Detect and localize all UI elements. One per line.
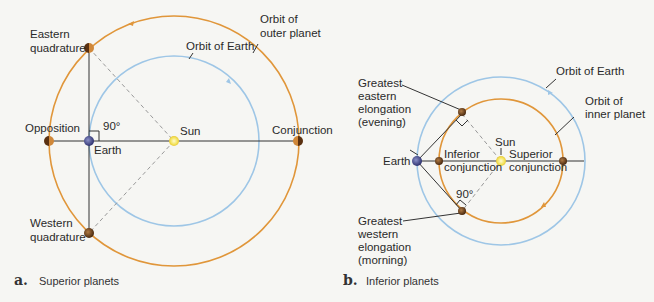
sun-icon [169,136,179,146]
label-orbit-of-earth: Orbit of Earth [556,65,624,77]
label-western-quadrature-1: Western [30,217,73,229]
label-conjunction: Conjunction [272,124,333,136]
label-orbit-outer-2: outer planet [260,27,322,39]
label-greatest-western-1: Greatest [358,215,403,227]
earth-orbit-arrow-icon [226,78,231,84]
label-orbit-outer-1: Orbit of [260,13,299,25]
label-orbit-inner-2: inner planet [585,108,646,120]
earth-icon [84,136,94,146]
caption-superior-planets: Superior planets [39,275,120,287]
right-angle-marker [456,120,468,126]
earth-icon [412,156,422,166]
label-greatest-western-2: western [357,228,398,240]
planet-opposition-icon [44,136,54,146]
label-greatest-eastern-1: Greatest [358,77,403,89]
caption-letter-a: a. [14,272,28,288]
label-orbit-of-earth: Orbit of Earth [186,40,254,52]
label-superior-conjunction-1: Superior [509,148,553,160]
label-sun: Sun [180,125,200,137]
label-opposition: Opposition [25,122,80,134]
panel-inferior-planets: Greatest eastern elongation (evening) Ea… [343,65,646,288]
planet-inferior-conjunction-icon [435,157,443,165]
label-greatest-western-3: elongation [358,241,411,253]
caption-inferior-planets: Inferior planets [366,275,439,287]
label-greatest-eastern-4: (evening) [358,116,406,128]
label-earth: Earth [383,155,411,167]
label-greatest-eastern-3: elongation [358,103,411,115]
label-superior-conjunction-2: conjunction [509,161,567,173]
label-eastern-quadrature-2: quadrature [30,42,86,54]
orbital-configurations-figure: Eastern quadrature Opposition 90° Earth … [0,0,654,302]
panel-superior-planets: Eastern quadrature Opposition 90° Earth … [14,13,333,288]
planet-conjunction-icon [293,136,303,146]
label-orbit-inner-1: Orbit of [585,95,624,107]
label-angle-90: 90° [456,188,473,200]
label-greatest-western-4: (morning) [358,254,407,266]
label-earth: Earth [94,144,122,156]
label-angle-90: 90° [103,120,120,132]
label-sun: Sun [495,136,515,148]
label-western-quadrature-2: quadrature [30,231,86,243]
label-greatest-eastern-2: eastern [358,90,396,102]
label-eastern-quadrature-1: Eastern [30,28,70,40]
caption-letter-b: b. [343,272,358,288]
label-inferior-conjunction-2: conjunction [444,161,502,173]
label-inferior-conjunction-1: Inferior [444,148,480,160]
planet-greatest-western-icon [458,207,466,215]
planet-greatest-eastern-icon [458,108,466,116]
